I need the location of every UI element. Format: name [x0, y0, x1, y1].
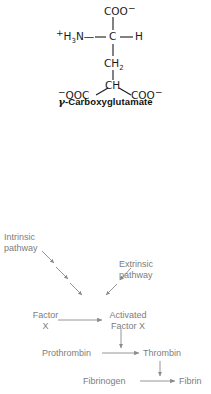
- alpha-carboxylate-label: COO−: [104, 6, 135, 17]
- activated-factor-x-line1: Activated: [105, 310, 151, 321]
- factor-x-label: Factor X: [29, 310, 62, 331]
- prothrombin-label: Prothrombin: [42, 348, 91, 359]
- gamma-carbon-label: CH: [105, 80, 120, 91]
- intrinsic-pathway-line1: Intrinsic: [4, 232, 38, 243]
- activated-factor-x-line2: Factor X: [105, 321, 151, 332]
- gamma-symbol: γ: [58, 96, 65, 107]
- structure-caption-text: -Carboxyglutamate: [65, 96, 153, 107]
- alpha-hydrogen-label: H: [135, 31, 143, 42]
- thrombin-label: Thrombin: [143, 348, 181, 359]
- coagulation-cascade-panel: Intrinsic pathway Extrinsic pathway Fact…: [0, 224, 211, 394]
- alpha-carbon-label: C: [109, 31, 116, 42]
- extrinsic-pathway-line1: Extrinsic: [119, 259, 153, 270]
- factor-x-line1: Factor: [29, 310, 62, 321]
- figure-root: COO− +H3N— C H CH2 CH −OOC COO− γ-Carbox…: [0, 0, 211, 394]
- factor-x-line2: X: [29, 321, 62, 332]
- beta-carbon-label: CH2: [104, 58, 124, 69]
- amino-group-label: +H3N—: [56, 31, 94, 42]
- fibrinogen-label: Fibrinogen: [83, 376, 126, 387]
- activated-factor-x-label: Activated Factor X: [105, 310, 151, 331]
- fibrin-label: Fibrin: [179, 376, 202, 387]
- intrinsic-pathway-line2: pathway: [4, 243, 38, 254]
- intrinsic-pathway-label: Intrinsic pathway: [4, 232, 38, 253]
- chemical-structure-panel: COO− +H3N— C H CH2 CH −OOC COO− γ-Carbox…: [0, 0, 211, 120]
- structure-caption: γ-Carboxyglutamate: [0, 96, 211, 107]
- extrinsic-pathway-label: Extrinsic pathway: [119, 259, 153, 280]
- extrinsic-pathway-line2: pathway: [119, 270, 153, 281]
